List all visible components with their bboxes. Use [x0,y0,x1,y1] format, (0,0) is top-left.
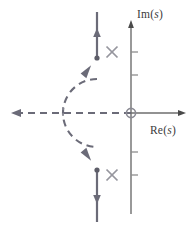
arc-arrowhead-lower [80,147,93,160]
dashed-circular-arc-branch [63,62,112,161]
imaginary-axis-label: Im(s) [137,8,163,20]
pole-marker-lower [107,170,118,181]
vertical-branch-lower-arrowhead [93,195,101,204]
root-locus-figure: Im(s) Re(s) [0,0,194,234]
imaginary-axis-label-suffix: ) [159,8,163,20]
breakaway-point-upper [94,55,99,60]
imaginary-axis-arrowhead [128,20,134,28]
root-locus-diagram [0,0,194,234]
real-axis-label: Re(s) [150,124,176,136]
real-axis-label-prefix: Re( [150,124,167,136]
real-axis-arrowhead [178,110,186,116]
solid-vertical-branch-upper [93,12,101,61]
real-axis-locus-arrowhead-left [11,109,21,117]
dashed-real-axis-branch [11,109,131,117]
arc-arrowhead-upper [80,65,93,78]
solid-vertical-branch-lower [93,167,101,222]
breakaway-point-lower [94,167,99,172]
real-axis-label-suffix: ) [172,124,176,136]
vertical-branch-upper-arrowhead [93,28,101,37]
imaginary-axis-label-prefix: Im( [137,8,154,20]
pole-marker-upper [107,47,118,58]
real-axis-group [131,110,186,116]
